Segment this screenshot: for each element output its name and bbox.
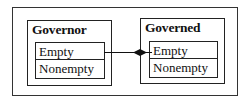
diamond-arrowhead-icon — [133, 49, 147, 56]
governance-connector — [0, 0, 249, 101]
